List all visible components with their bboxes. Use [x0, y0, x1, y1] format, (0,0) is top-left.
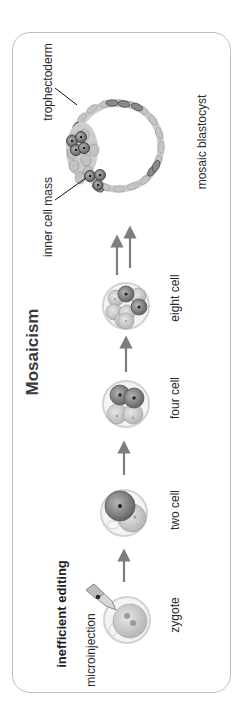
- mosaicism-diagram: trophectoderm inner cell mass mosaic bla…: [0, 0, 249, 708]
- label-inner-cell-mass: inner cell mass: [42, 177, 54, 257]
- diagram-title: Mosaicism: [24, 309, 41, 396]
- label-two-cell: two cell: [169, 490, 181, 530]
- microinjection-needle-icon: [86, 584, 116, 610]
- label-inefficient-editing: inefficient editing: [55, 560, 68, 668]
- eight-cell-embryo: [103, 283, 149, 329]
- label-eight-cell: eight cell: [169, 274, 181, 321]
- label-four-cell: four cell: [169, 377, 181, 419]
- label-mosaic-blastocyst: mosaic blastocyst: [196, 95, 208, 190]
- two-cell-embryo: [101, 490, 147, 536]
- label-microinjection: microinjection: [85, 613, 97, 686]
- trophectoderm-leader-line: [55, 88, 77, 105]
- four-cell-embryo: [103, 381, 149, 427]
- icm-leader-line: [55, 178, 86, 200]
- label-zygote: zygote: [169, 597, 181, 632]
- blastocyst: [55, 88, 164, 200]
- label-trophectoderm: trophectoderm: [42, 43, 54, 120]
